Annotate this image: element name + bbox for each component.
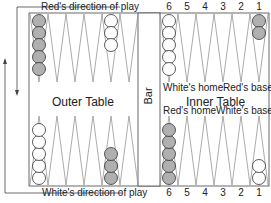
point-number: 1 [253, 2, 265, 12]
outer-table-label: Outer Table [52, 96, 114, 108]
up-arrow-icon [3, 58, 7, 64]
red-base-label: Red's base [223, 83, 271, 93]
red-home-label: Red's home [163, 106, 216, 116]
white-checkers-top-inner [163, 15, 176, 76]
down-arrow-icon [15, 90, 19, 96]
bar-label: Bar [137, 85, 161, 107]
white-base-label: White's base [216, 106, 271, 116]
point-number: 3 [217, 188, 229, 198]
point-number: 1 [253, 188, 265, 198]
point-number: 4 [199, 188, 211, 198]
point-number: 2 [235, 188, 247, 198]
red-checkers-bottom-inner [163, 124, 176, 185]
white-direction-label: White's direction of play [42, 188, 147, 198]
red-checkers-top-left [33, 15, 46, 76]
point-number: 5 [181, 188, 193, 198]
point-number: 6 [163, 2, 175, 12]
point-number: 2 [235, 2, 247, 12]
point-number: 6 [163, 188, 175, 198]
point-number: 5 [181, 2, 193, 12]
white-home-label: White's home [163, 83, 223, 93]
point-number: 4 [199, 2, 211, 12]
point-number: 3 [217, 2, 229, 12]
white-checkers-top-outer [105, 15, 118, 52]
red-direction-label: Red's direction of play [41, 2, 139, 12]
white-checkers-bottom-left [33, 124, 46, 185]
red-checkers-bottom-outer [105, 148, 118, 185]
